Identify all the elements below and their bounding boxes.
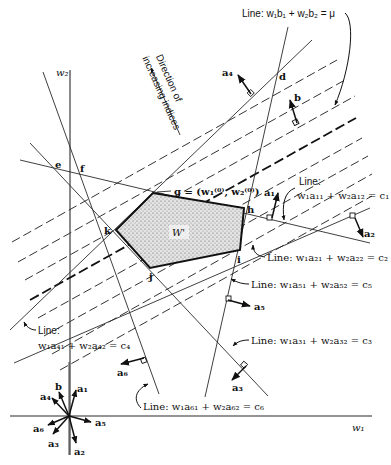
svg-text:a₅: a₅ [95, 417, 106, 428]
svg-text:a₄: a₄ [222, 67, 233, 78]
label-c4: Line: w₁a₄₁ + w₂a₄₂ = c₄ [24, 322, 130, 351]
vector-a5: a₅ [226, 296, 265, 312]
point-d: d [279, 71, 286, 82]
point-e: e [55, 159, 61, 170]
svg-text:b: b [55, 381, 62, 392]
label-mu: Line: w₁b₁ + w₂b₂ = μ [242, 8, 351, 105]
svg-text:a₆: a₆ [117, 367, 128, 378]
label-c1: Line: w₁a₁₁ + w₂a₁₂ = c₁ [283, 176, 389, 220]
svg-text:Line:: Line: [38, 325, 60, 336]
label-c6: Line: w₁a₆₁ + w₂a₆₂ = c₆ [136, 384, 264, 412]
svg-text:Line: w₁a₅₁ + w₂a₅₂ = c₅: Line: w₁a₅₁ + w₂a₅₂ = c₅ [251, 279, 372, 290]
label-c2: Line: w₁a₂₁ + w₂a₂₂ = c₂ [253, 245, 388, 263]
svg-text:a₆: a₆ [33, 423, 44, 434]
svg-text:b: b [294, 92, 301, 103]
svg-text:Line: w₁b₁ + w₂b₂ = μ: Line: w₁b₁ + w₂b₂ = μ [242, 8, 335, 19]
svg-text:Line:: Line: [299, 176, 321, 187]
vector-legend: a₁ b a₄ a₅ a₆ a₃ a₂ [33, 362, 106, 457]
svg-text:w₁a₄₁ + w₂a₄₂ = c₄: w₁a₄₁ + w₂a₄₂ = c₄ [38, 340, 130, 351]
svg-text:a₂: a₂ [364, 228, 375, 239]
label-c5: Line: w₁a₅₁ + w₂a₅₂ = c₅ [231, 279, 372, 290]
point-j: j [148, 271, 153, 282]
line-c3 [30, 143, 268, 396]
g-pointer [157, 191, 171, 192]
point-i: i [237, 254, 241, 265]
point-g: g = (w₁⁽⁰⁾, w₂⁽⁰⁾) [174, 186, 259, 198]
svg-text:a₅: a₅ [254, 301, 265, 312]
direction-label: Direction of increasing indices [140, 49, 194, 131]
region-label: W' [172, 227, 185, 238]
svg-text:a₁: a₁ [264, 187, 275, 198]
w1-axis-label: w₁ [352, 422, 365, 433]
w2-axis-label: w₂ [56, 67, 69, 78]
point-f: f [80, 163, 85, 174]
svg-text:Line: w₁a₆₁ + w₂a₆₂ = c₆: Line: w₁a₆₁ + w₂a₆₂ = c₆ [143, 401, 264, 412]
label-c3: Line: w₁a₃₁ + w₂a₃₂ = c₃ [233, 335, 372, 346]
svg-text:a₁: a₁ [77, 383, 88, 394]
svg-text:a₂: a₂ [74, 446, 85, 457]
point-k: k [104, 225, 112, 236]
point-h: h [247, 204, 255, 215]
svg-text:Line: w₁a₂₁ + w₂a₂₂ = c₂: Line: w₁a₂₁ + w₂a₂₂ = c₂ [267, 252, 388, 263]
linear-programming-diagram: w₁ w₂ Direction of increasing indices W' [0, 0, 391, 465]
vector-b: b [290, 92, 301, 126]
vector-a4: a₄ [222, 67, 254, 97]
svg-text:w₁a₁₁ + w₂a₁₂ = c₁: w₁a₁₁ + w₂a₁₂ = c₁ [297, 190, 389, 201]
svg-text:a₄: a₄ [40, 391, 51, 402]
vector-a1: a₁ [264, 187, 278, 220]
svg-text:a₃: a₃ [232, 382, 243, 393]
vector-a2: a₂ [350, 213, 375, 239]
vector-a6: a₆ [117, 357, 147, 378]
svg-text:a₃: a₃ [48, 438, 59, 449]
svg-text:Line: w₁a₃₁ + w₂a₃₂ = c₃: Line: w₁a₃₁ + w₂a₃₂ = c₃ [251, 335, 372, 346]
